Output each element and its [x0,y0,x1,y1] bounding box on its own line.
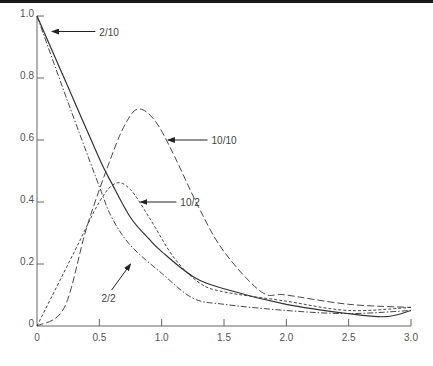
annotations: 2/1010/1010/22/2 [52,27,237,305]
y-tick-label: 0.6 [20,132,34,143]
y-tick-label: 0.2 [20,256,34,267]
x-tick-label: 2.5 [342,332,356,343]
y-tick-label: 0 [28,318,34,329]
x-tick-label: 0 [34,332,40,343]
annotation-label-10-2: 10/2 [180,197,200,208]
y-tick-label: 0.8 [20,70,34,81]
x-tick-label: 0.5 [92,332,106,343]
axes: 00.51.01.52.02.53.000.20.40.60.81.0 [20,8,418,343]
x-tick-label: 2.0 [279,332,293,343]
annotation-label-10-10: 10/10 [212,135,237,146]
x-tick-label: 3.0 [404,332,418,343]
annotation-label-2-2: 2/2 [102,293,116,304]
annotation-arrow [112,264,131,290]
y-tick-label: 1.0 [20,8,34,19]
y-tick-label: 0.4 [20,194,34,205]
x-tick-label: 1.5 [217,332,231,343]
x-tick-label: 1.0 [155,332,169,343]
series-2-10-line [37,16,411,317]
series-2-2-line [37,16,411,314]
annotation-label-2-10: 2/10 [99,27,119,38]
series-group [37,16,411,326]
line-chart: 00.51.01.52.02.53.000.20.40.60.81.0 2/10… [0,0,433,366]
